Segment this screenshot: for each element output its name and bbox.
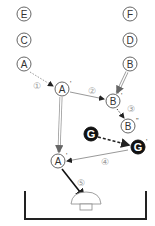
step-label-3: ③ xyxy=(127,104,135,114)
node-a1: A' xyxy=(55,80,71,96)
svg-text:E: E xyxy=(21,9,28,20)
node-e: E xyxy=(17,7,31,21)
arrow-step-4 xyxy=(67,150,128,161)
node-g: G xyxy=(84,127,98,141)
step-label-1: ① xyxy=(33,81,41,91)
step-label-5: ⑤ xyxy=(77,178,85,188)
node-b1: B' xyxy=(106,92,122,108)
step-label-4: ④ xyxy=(101,157,109,167)
svg-text:': ' xyxy=(66,152,67,159)
svg-text:F: F xyxy=(127,9,133,20)
svg-text:': ' xyxy=(146,138,147,145)
svg-text:A: A xyxy=(21,59,28,70)
svg-text:'': '' xyxy=(136,117,139,124)
svg-text:G: G xyxy=(134,141,143,153)
step-label-2: ② xyxy=(88,86,96,96)
svg-text:G: G xyxy=(87,128,96,140)
svg-text:C: C xyxy=(20,35,27,46)
svg-text:B: B xyxy=(125,121,132,132)
node-f: F xyxy=(123,7,137,21)
dome-icon xyxy=(71,192,101,204)
node-c: C xyxy=(17,33,31,47)
arrow-step-2 xyxy=(70,92,104,99)
node-b2: B'' xyxy=(121,117,139,133)
node-a: A xyxy=(17,57,31,71)
svg-text:D: D xyxy=(126,35,133,46)
node-d: D xyxy=(123,33,137,47)
svg-text:A: A xyxy=(55,156,62,167)
node-b: B xyxy=(123,57,137,71)
arrow-g-to-g-prime xyxy=(98,137,129,145)
svg-text:A: A xyxy=(59,84,66,95)
svg-text:B: B xyxy=(127,59,134,70)
arrow-step-3 xyxy=(117,109,124,118)
node-g1: G' xyxy=(131,138,147,154)
diagram-canvas: ECAFDBA'B'B''GG'A' ①②③④⑤ xyxy=(0,0,155,226)
node-a2: A' xyxy=(51,152,67,168)
svg-text:': ' xyxy=(121,92,122,99)
svg-text:B: B xyxy=(110,96,117,107)
svg-text:': ' xyxy=(70,80,71,87)
